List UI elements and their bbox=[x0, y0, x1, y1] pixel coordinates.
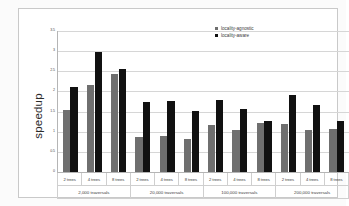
x-tick-label: 4 trees bbox=[300, 173, 324, 186]
bar-group bbox=[131, 31, 155, 172]
bar-locality-agnostic bbox=[111, 74, 118, 172]
bar-locality-agnostic bbox=[305, 130, 312, 172]
x-tick-label: 8 trees bbox=[324, 173, 349, 186]
x-tick-label: 8 trees bbox=[178, 173, 202, 186]
bar-locality-aware bbox=[289, 95, 296, 172]
y-tick-label: 2.5 bbox=[50, 69, 55, 73]
bar-group bbox=[204, 31, 228, 172]
bar-locality-aware bbox=[264, 121, 271, 172]
bar-locality-aware bbox=[337, 121, 344, 172]
x-tick-label: 2 trees bbox=[275, 173, 299, 186]
bars-layer bbox=[58, 31, 349, 172]
legend-label: locality-agnostic bbox=[221, 25, 254, 32]
bar-locality-agnostic bbox=[208, 125, 215, 172]
legend-swatch-icon bbox=[215, 27, 218, 30]
x-group-label: 20,000 traversals bbox=[130, 186, 203, 199]
y-tick-label: 1.5 bbox=[50, 110, 55, 114]
plot-area: 00.511.522.533.5 bbox=[57, 31, 349, 173]
bar-group bbox=[107, 31, 131, 172]
x-tick-label: 4 trees bbox=[227, 173, 251, 186]
y-tick-label: 0 bbox=[53, 170, 55, 174]
bar-locality-agnostic bbox=[63, 110, 70, 172]
x-tick-label: 2 trees bbox=[203, 173, 227, 186]
chart-legend: locality-agnostic locality-aware bbox=[215, 25, 254, 39]
y-tick-label: 3 bbox=[53, 49, 55, 53]
x-tick-label: 8 trees bbox=[251, 173, 275, 186]
bar-locality-aware bbox=[240, 109, 247, 172]
y-tick-label: 1 bbox=[53, 130, 55, 134]
legend-item-locality-agnostic: locality-agnostic bbox=[215, 25, 254, 32]
x-axis-tier-trees: 2 trees4 trees8 trees2 trees4 trees8 tre… bbox=[57, 173, 349, 186]
bar-locality-agnostic bbox=[232, 130, 239, 172]
legend-swatch-icon bbox=[215, 34, 218, 37]
bar-group bbox=[228, 31, 252, 172]
bar-locality-aware bbox=[192, 111, 199, 172]
x-group-label: 2,000 traversals bbox=[57, 186, 130, 199]
bar-locality-agnostic bbox=[184, 139, 191, 172]
bar-locality-aware bbox=[167, 101, 174, 172]
bar-group bbox=[276, 31, 300, 172]
bar-locality-aware bbox=[216, 100, 223, 172]
legend-label: locality-aware bbox=[221, 32, 249, 39]
bar-group bbox=[325, 31, 349, 172]
x-axis-tier-groups: 2,000 traversals20,000 traversals100,000… bbox=[57, 186, 349, 199]
x-tick-label: 8 trees bbox=[106, 173, 130, 186]
bar-locality-aware bbox=[95, 52, 102, 172]
bar-locality-agnostic bbox=[281, 124, 288, 172]
x-tick-label: 4 trees bbox=[81, 173, 105, 186]
bar-group bbox=[58, 31, 82, 172]
bar-locality-agnostic bbox=[135, 137, 142, 172]
bar-group bbox=[82, 31, 106, 172]
bar-locality-aware bbox=[119, 69, 126, 172]
y-tick-label: 2 bbox=[53, 90, 55, 94]
bar-locality-agnostic bbox=[257, 123, 264, 172]
bar-locality-aware bbox=[70, 87, 77, 172]
bar-locality-agnostic bbox=[160, 136, 167, 172]
y-tick-label: 3.5 bbox=[50, 29, 55, 33]
y-tick-label: 0.5 bbox=[50, 150, 55, 154]
bar-group bbox=[155, 31, 179, 172]
bar-locality-agnostic bbox=[329, 129, 336, 172]
x-group-label: 100,000 traversals bbox=[203, 186, 276, 199]
legend-item-locality-aware: locality-aware bbox=[215, 32, 254, 39]
bar-locality-aware bbox=[143, 102, 150, 173]
chart-frame: speedup 00.511.522.533.5 locality-agnost… bbox=[18, 8, 338, 198]
x-group-label: 200,000 traversals bbox=[275, 186, 349, 199]
bar-group bbox=[301, 31, 325, 172]
x-tick-label: 2 trees bbox=[57, 173, 81, 186]
bar-group bbox=[252, 31, 276, 172]
bar-locality-aware bbox=[313, 105, 320, 172]
bar-group bbox=[179, 31, 203, 172]
x-tick-label: 4 trees bbox=[154, 173, 178, 186]
bar-locality-agnostic bbox=[87, 85, 94, 172]
x-axis: 2 trees4 trees8 trees2 trees4 trees8 tre… bbox=[57, 173, 349, 199]
x-tick-label: 2 trees bbox=[130, 173, 154, 186]
y-axis-title: speedup bbox=[31, 45, 45, 187]
